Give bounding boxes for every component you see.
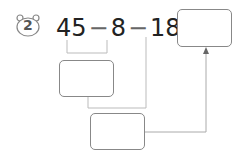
intermediate-answer-box-1[interactable] [59,60,114,97]
operator-minus-1: − [89,14,109,42]
problem-number: 2 [23,17,33,33]
problem-number-badge: 2 [15,13,41,37]
arrow-up-icon [203,47,209,54]
term-3: 18 [150,14,181,42]
operator-minus-2: − [128,14,148,42]
result-answer-box[interactable] [177,9,232,47]
intermediate-answer-box-2[interactable] [90,113,145,150]
term-2: 8 [111,14,126,42]
term-1: 45 [56,14,87,42]
